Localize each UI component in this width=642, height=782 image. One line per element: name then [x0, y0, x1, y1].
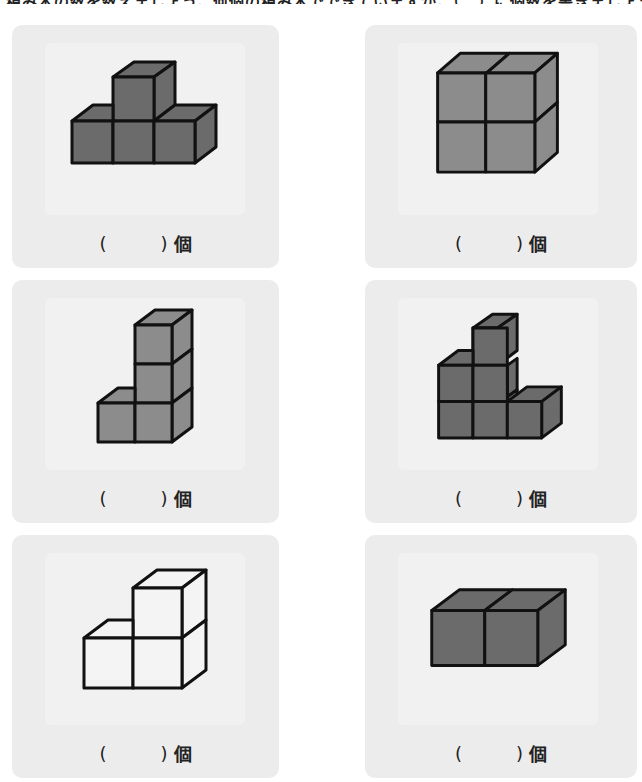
close-paren: ): [161, 743, 168, 764]
close-paren: ): [516, 488, 523, 509]
unit-label: 個: [174, 230, 192, 256]
cube-figure-stair: [365, 280, 632, 480]
problem-card-4: ( ) 個: [365, 280, 637, 523]
problem-card-3: ( ) 個: [12, 280, 279, 523]
answer-field[interactable]: ( ) 個: [365, 735, 637, 771]
cube-figure-pyramid: [12, 25, 279, 225]
unit-label: 個: [529, 485, 547, 511]
problem-card-6: ( ) 個: [365, 535, 637, 778]
answer-field[interactable]: ( ) 個: [365, 225, 637, 261]
close-paren: ): [161, 233, 168, 254]
open-paren: (: [455, 233, 462, 254]
open-paren: (: [99, 743, 106, 764]
problem-card-1: ( ) 個: [12, 25, 279, 268]
unit-label: 個: [174, 485, 192, 511]
open-paren: (: [99, 233, 106, 254]
cube-figure-l-white: [12, 535, 279, 735]
unit-label: 個: [529, 740, 547, 766]
open-paren: (: [455, 488, 462, 509]
answer-field[interactable]: ( ) 個: [365, 480, 637, 516]
answer-field[interactable]: ( ) 個: [12, 735, 279, 771]
instruction-text: 積み木の数を数えましょう。何個の積み木でできていますか。（ ）に個数を書きましょ…: [0, 0, 642, 4]
cube-figure-l-tower: [12, 280, 279, 480]
close-paren: ): [516, 233, 523, 254]
close-paren: ): [516, 743, 523, 764]
unit-label: 個: [529, 230, 547, 256]
unit-label: 個: [174, 740, 192, 766]
problem-card-2: ( ) 個: [365, 25, 637, 268]
answer-field[interactable]: ( ) 個: [12, 225, 279, 261]
cube-figure-row: [365, 535, 632, 735]
problem-card-5: ( ) 個: [12, 535, 279, 778]
instruction-header: 積み木の数を数えましょう。何個の積み木でできていますか。（ ）に個数を書きましょ…: [0, 0, 642, 4]
cube-figure-2x2-block: [365, 25, 632, 225]
open-paren: (: [455, 743, 462, 764]
open-paren: (: [99, 488, 106, 509]
close-paren: ): [161, 488, 168, 509]
answer-field[interactable]: ( ) 個: [12, 480, 279, 516]
